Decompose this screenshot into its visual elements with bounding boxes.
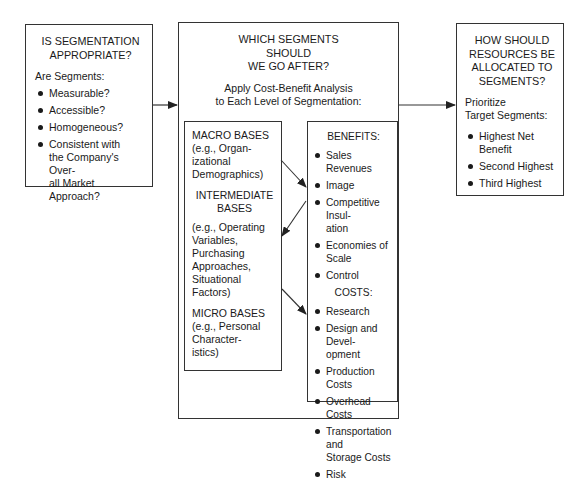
resource-allocation-box: HOW SHOULD RESOURCES BE ALLOCATED TO SEG… bbox=[456, 23, 564, 196]
benefit-item: Competitive Insul- ation bbox=[312, 196, 395, 235]
micro-bases-desc: (e.g., Personal Character- istics) bbox=[192, 320, 277, 359]
segmentation-appropriate-box: IS SEGMENTATION APPROPRIATE? Are Segment… bbox=[25, 24, 153, 187]
benefit-item: Control bbox=[312, 269, 395, 282]
intermediate-bases-title: INTERMEDIATE BASES bbox=[192, 189, 277, 215]
priority-list: Highest Net Benefit Second Highest Third… bbox=[465, 130, 559, 190]
micro-bases-title: MICRO BASES bbox=[192, 307, 277, 320]
segmentation-appropriate-title: IS SEGMENTATION APPROPRIATE? bbox=[35, 35, 146, 62]
cost-item: Transportation and Storage Costs bbox=[312, 425, 395, 464]
criteria-item: Measurable? bbox=[35, 87, 146, 100]
segment-criteria-list: Measurable? Accessible? Homogeneous? Con… bbox=[35, 87, 146, 203]
criteria-item: Consistent with the Company's Over- all … bbox=[35, 138, 146, 203]
cost-item: Production Costs bbox=[312, 365, 395, 391]
criteria-item: Homogeneous? bbox=[35, 121, 146, 134]
benefit-item: Economies of Scale bbox=[312, 239, 395, 265]
cost-item: Overhead Costs bbox=[312, 395, 395, 421]
resource-allocation-title: HOW SHOULD RESOURCES BE ALLOCATED TO SEG… bbox=[465, 34, 559, 88]
priority-item: Third Highest bbox=[465, 177, 559, 190]
segmentation-bases-box: MACRO BASES (e.g., Organ- izational Demo… bbox=[184, 121, 282, 371]
cost-item: Design and Devel- opment bbox=[312, 322, 395, 361]
macro-bases-desc: (e.g., Organ- izational Demographics) bbox=[192, 142, 277, 181]
benefits-costs-box: BENEFITS: Sales Revenues Image Competiti… bbox=[307, 121, 398, 402]
criteria-item: Accessible? bbox=[35, 104, 146, 117]
costs-list: Research Design and Devel- opment Produc… bbox=[312, 305, 395, 481]
costs-title: COSTS: bbox=[312, 286, 395, 299]
priority-item: Highest Net Benefit bbox=[465, 130, 559, 156]
cost-item: Research bbox=[312, 305, 395, 318]
benefit-item: Sales Revenues bbox=[312, 149, 395, 175]
benefit-item: Image bbox=[312, 179, 395, 192]
benefits-title: BENEFITS: bbox=[312, 130, 395, 143]
priority-item: Second Highest bbox=[465, 160, 559, 173]
cost-item: Risk bbox=[312, 468, 395, 481]
benefits-list: Sales Revenues Image Competitive Insul- … bbox=[312, 149, 395, 282]
cost-benefit-subtitle: Apply Cost-Benefit Analysis to Each Leve… bbox=[185, 82, 392, 108]
segmentation-appropriate-subtitle: Are Segments: bbox=[35, 70, 146, 83]
which-segments-title: WHICH SEGMENTS SHOULD WE GO AFTER? bbox=[185, 33, 392, 74]
macro-bases-title: MACRO BASES bbox=[192, 129, 277, 142]
intermediate-bases-desc: (e.g., Operating Variables, Purchasing A… bbox=[192, 221, 277, 299]
prioritize-subtitle: Prioritize Target Segments: bbox=[465, 96, 559, 122]
